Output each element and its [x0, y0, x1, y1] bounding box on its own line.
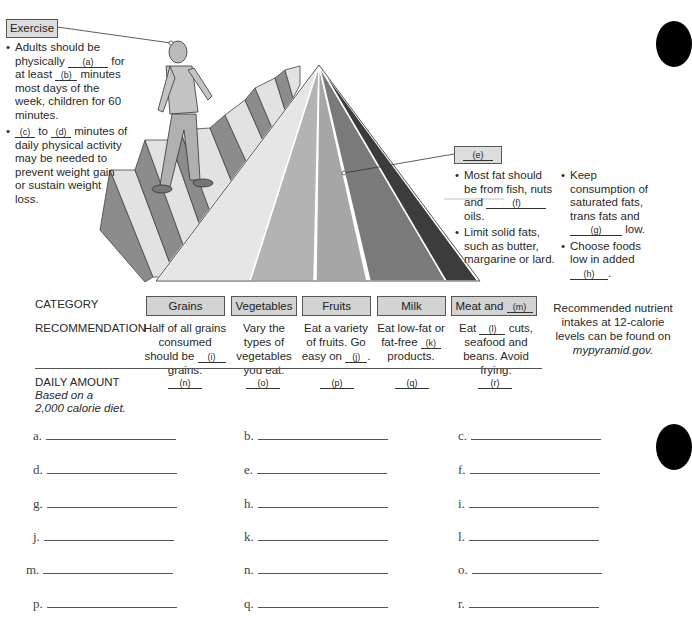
rec-milk: Eat low-fat or fat-free (k) products. [372, 321, 450, 363]
answer-g[interactable]: g. [33, 496, 177, 512]
rec-fruits: Eat a variety of fruits. Go easy on (j). [300, 321, 372, 363]
blank-l[interactable]: (l) [479, 324, 505, 335]
oils-bullet-3: Keep consumption of saturated fats, tran… [561, 169, 661, 237]
answer-p[interactable]: p. [33, 596, 177, 612]
answer-h[interactable]: h. [244, 496, 388, 512]
table-divider [35, 368, 542, 369]
answer-c[interactable]: c. [458, 428, 601, 444]
answer-d[interactable]: d. [33, 462, 177, 478]
pyramid-note: Recommended nutrient intakes at 12-calor… [548, 301, 678, 357]
answer-m[interactable]: m. [26, 562, 173, 578]
category-meat: Meat and (m) [451, 296, 537, 316]
blank-j[interactable]: (j) [345, 352, 367, 363]
blank-k[interactable]: (k) [421, 338, 441, 349]
answer-q[interactable]: q. [244, 596, 388, 612]
daily-amount-sub2: 2,000 calorie diet. [35, 402, 126, 414]
oils-bullet-4: Choose foods low in added (h). [561, 240, 661, 281]
answer-n[interactable]: n. [244, 562, 388, 578]
answer-k[interactable]: k. [244, 529, 388, 545]
exercise-bullet-2: (c) to (d) minutes of daily physical act… [6, 125, 128, 206]
blank-q[interactable]: (q) [395, 378, 429, 389]
amount-vegetables: (o) [246, 378, 280, 389]
blank-r[interactable]: (r) [478, 378, 512, 389]
blank-m[interactable]: (m) [507, 302, 533, 313]
blank-c[interactable]: (c) [15, 127, 35, 138]
blank-n[interactable]: (n) [168, 378, 202, 389]
blank-o[interactable]: (o) [246, 378, 280, 389]
daily-amount-sub1: Based on a [35, 389, 93, 401]
answer-b[interactable]: b. [244, 428, 388, 444]
answer-f[interactable]: f. [458, 462, 600, 478]
blank-i[interactable]: (i) [198, 352, 226, 363]
exercise-bullet-1: Adults should be physically (a) for at l… [6, 41, 128, 122]
amount-milk: (q) [395, 378, 429, 389]
blank-b[interactable]: (b) [55, 70, 77, 81]
answer-i[interactable]: i. [458, 496, 599, 512]
amount-meat: (r) [478, 378, 512, 389]
daily-amount-label: DAILY AMOUNT [35, 376, 120, 388]
blank-d[interactable]: (d) [51, 127, 71, 138]
answer-e[interactable]: e. [244, 462, 387, 478]
exercise-bullets: Adults should be physically (a) for at l… [6, 41, 128, 209]
recommendation-row-label: RECOMMENDATION [35, 322, 146, 334]
amount-grains: (n) [168, 378, 202, 389]
oils-bullet-1: Most fat should be from fish, nuts and (… [455, 169, 555, 223]
blank-e[interactable]: (e) [463, 150, 493, 161]
blank-g[interactable]: (g) [570, 225, 622, 236]
category-fruits: Fruits [302, 296, 371, 316]
oils-bullet-2: Limit solid fats, such as butter, margar… [455, 226, 555, 267]
punch-hole-bottom [656, 424, 692, 470]
answer-r[interactable]: r. [458, 596, 599, 612]
mypyramid-link[interactable]: mypyramid.gov. [573, 344, 653, 356]
category-grains: Grains [146, 296, 225, 316]
category-milk: Milk [377, 296, 446, 316]
answer-j[interactable]: j. [33, 529, 174, 545]
category-vegetables: Vegetables [231, 296, 297, 316]
answer-a[interactable]: a. [33, 428, 176, 444]
amount-fruits: (p) [320, 378, 354, 389]
blank-h[interactable]: (h) [570, 269, 608, 280]
oils-bullets-col2: Keep consumption of saturated fats, tran… [561, 169, 661, 283]
oils-label-box: (e) [454, 146, 502, 164]
answer-o[interactable]: o. [458, 562, 602, 578]
oils-bullets-col1: Most fat should be from fish, nuts and (… [455, 169, 555, 270]
category-row-label: CATEGORY [35, 298, 98, 310]
blank-f[interactable]: (f) [486, 198, 546, 209]
blank-a[interactable]: (a) [68, 57, 108, 68]
exercise-label: Exercise [6, 19, 58, 38]
blank-p[interactable]: (p) [320, 378, 354, 389]
answer-l[interactable]: l. [458, 529, 599, 545]
